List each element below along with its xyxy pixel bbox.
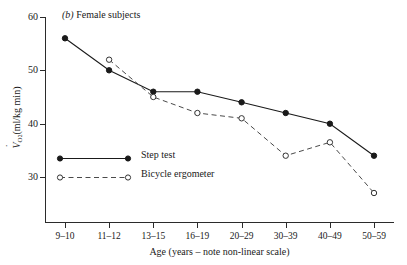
data-point [195,89,200,94]
data-point [283,153,288,158]
legend-sample-bicycle-ergometer [55,173,133,182]
series-line-0 [65,38,374,155]
data-point [327,140,332,145]
data-point [62,36,67,41]
data-point [106,57,111,62]
data-point [371,153,376,158]
data-point [151,89,156,94]
data-point [283,110,288,115]
legend-label-bicycle-ergometer: Bicycle ergometer [141,168,214,180]
data-point [239,100,244,105]
legend-sample-step-test [55,154,133,163]
data-point [151,94,156,99]
data-point [106,68,111,73]
chart-figure: (b) Female subjects 30405060 9–1011–1213… [0,0,407,265]
legend-label-step-test: Step test [141,149,175,161]
data-point [239,116,244,121]
data-point [195,110,200,115]
chart-series-layer [0,0,407,265]
data-point [371,190,376,195]
data-point [327,121,332,126]
